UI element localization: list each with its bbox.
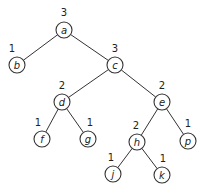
height-label: 2 [133, 120, 139, 131]
height-label: 1 [160, 153, 166, 164]
node-label: e [159, 97, 165, 108]
edge-h-j [118, 148, 132, 167]
height-label: 3 [112, 43, 118, 54]
tree-nodes: a3b1c3d2e2f1g1h2p1j1k1 [9, 7, 196, 183]
node-h: h2 [129, 120, 145, 150]
height-label: 2 [159, 80, 165, 91]
node-e: e2 [154, 80, 170, 110]
node-b: b1 [9, 43, 25, 73]
node-label: c [112, 60, 118, 71]
node-label: g [85, 134, 91, 145]
height-label: 1 [185, 118, 191, 129]
edge-a-b [23, 35, 57, 60]
node-label: a [61, 25, 67, 36]
edge-d-g [67, 109, 84, 133]
edge-e-h [141, 109, 158, 135]
node-g: g1 [80, 117, 96, 147]
node-d: d2 [54, 80, 70, 110]
edge-e-p [166, 109, 183, 135]
height-label: 1 [87, 117, 93, 128]
edge-c-e [121, 70, 155, 97]
height-label: 1 [9, 43, 15, 54]
height-label: 3 [61, 7, 67, 18]
height-label: 1 [35, 117, 41, 128]
node-f: f1 [34, 117, 50, 147]
node-a: a3 [56, 7, 72, 38]
tree-diagram: a3b1c3d2e2f1g1h2p1j1k1 [0, 0, 203, 193]
node-c: c3 [107, 43, 123, 73]
node-label: h [134, 137, 140, 148]
node-label: d [59, 97, 66, 108]
height-label: 2 [59, 80, 65, 91]
node-label: p [184, 136, 191, 147]
node-label: b [14, 60, 20, 71]
edge-h-k [142, 148, 157, 168]
edge-c-d [69, 70, 109, 98]
height-label: 1 [108, 152, 114, 163]
edge-a-c [71, 35, 109, 61]
edge-d-f [46, 109, 58, 132]
